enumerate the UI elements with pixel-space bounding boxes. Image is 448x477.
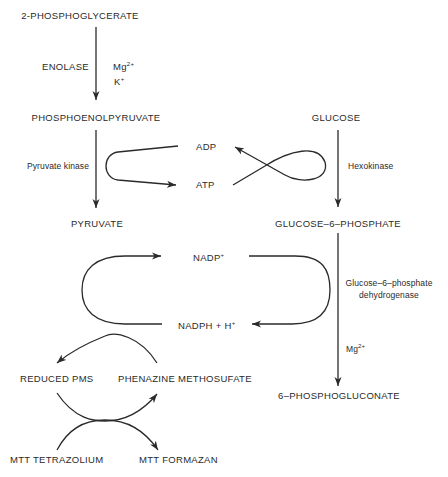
arrow-nadp-reduction [249,256,330,324]
arrow-adp-atp-left [106,146,178,185]
label-glucose-6-phosphate: GLUCOSE–6–PHOSPHATE [275,219,401,229]
label-glucose: GLUCOSE [312,113,361,123]
label-mg-cofactor: Mg2+ [113,61,134,72]
label-g6pdh-mg-cofactor: Mg2+ [346,343,365,354]
arrow-atp-adp-loop [233,147,326,185]
label-mtt-formazan: MTT FORMAZAN [139,455,218,465]
arrow-nadph-oxidation [82,256,162,324]
label-nadph: NADPH + H+ [178,320,235,331]
label-phosphoenolpyruvate: PHOSPHOENOLPYRUVATE [32,113,161,123]
label-nadp: NADP+ [193,252,224,263]
label-6-phosphogluconate: 6–PHOSPHOGLUCONATE [278,391,400,401]
arrow-pms-oxidation [57,393,157,421]
label-pyruvate: PYRUVATE [71,219,123,229]
label-adp: ADP [196,142,216,152]
pathway-diagram: 2-PHOSPHOGLYCERATE ENOLASE Mg2+ K+ PHOSP… [0,0,448,477]
label-g6pdh-line1: Glucose–6–phosphate [346,279,433,288]
label-2-phosphoglycerate: 2-PHOSPHOGLYCERATE [21,11,139,21]
label-enolase: ENOLASE [42,62,89,72]
arrow-pms-reduction [57,334,157,363]
label-phenazine-methosufate: PHENAZINE METHOSUFATE [118,374,252,384]
label-reduced-pms: REDUCED PMS [20,374,94,384]
label-atp: ATP [196,180,215,190]
label-hexokinase: Hexokinase [348,162,393,171]
arrow-mtt-reduction [57,420,158,450]
label-pyruvate-kinase: Pyruvate kinase [27,162,89,171]
label-mtt-tetrazolium: MTT TETRAZOLIUM [10,455,103,465]
label-g6pdh-line2: dehydrogenase [359,291,419,300]
label-k-cofactor: K+ [114,76,124,87]
